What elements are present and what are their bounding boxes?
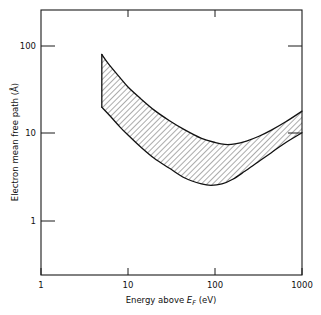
- y-axis-title: Electron mean free path (Å): [9, 83, 20, 201]
- universal-curve-plot: 1 10 100 1000 100 10 1 Electron mean fre…: [0, 0, 321, 315]
- x-tick-label-100: 100: [207, 280, 223, 290]
- x-axis-title-pre: Energy above: [126, 295, 187, 305]
- y-tick-label-100: 100: [20, 41, 36, 51]
- x-tick-label-1: 1: [38, 280, 43, 290]
- y-tick-label-1: 1: [31, 216, 36, 226]
- x-axis-title: Energy above EF (eV): [126, 295, 217, 307]
- x-axis-title-post: (eV): [196, 295, 216, 305]
- chart-figure: 1 10 100 1000 100 10 1 Electron mean fre…: [0, 0, 321, 315]
- x-tick-label-1000: 1000: [291, 280, 313, 290]
- x-tick-label-10: 10: [123, 280, 134, 290]
- y-tick-label-10: 10: [25, 128, 36, 138]
